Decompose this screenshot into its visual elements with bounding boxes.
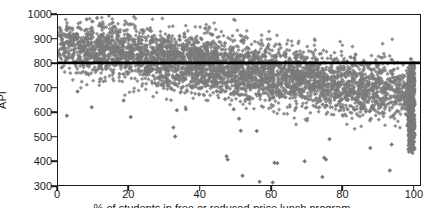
x-axis-label: % of students in free or reduced-price l… — [0, 188, 444, 208]
data-point — [305, 44, 309, 48]
data-point — [65, 21, 69, 25]
data-point — [381, 42, 385, 46]
data-point — [144, 87, 148, 91]
data-point — [133, 76, 137, 80]
data-point — [64, 17, 68, 21]
data-point — [110, 17, 114, 21]
data-point — [359, 124, 363, 128]
data-point — [230, 98, 234, 102]
data-point — [223, 41, 227, 45]
data-point — [383, 123, 387, 127]
data-point — [100, 16, 104, 20]
scatter-canvas — [58, 15, 420, 185]
data-point — [144, 82, 148, 86]
data-point — [146, 77, 150, 81]
data-point — [238, 99, 242, 103]
data-point — [129, 115, 133, 119]
data-point — [244, 106, 248, 110]
data-point — [350, 116, 354, 120]
data-point — [120, 79, 124, 83]
data-point — [332, 51, 336, 55]
data-point — [272, 110, 276, 114]
data-point — [237, 116, 241, 120]
data-point — [230, 34, 234, 38]
data-point — [259, 38, 263, 42]
data-point — [302, 159, 306, 163]
data-point — [320, 56, 324, 60]
y-tick-label: 800 — [0, 58, 52, 69]
data-point — [219, 30, 223, 34]
data-point — [189, 91, 193, 95]
data-point — [276, 101, 280, 105]
data-point — [329, 54, 333, 58]
data-point — [290, 43, 294, 47]
data-point — [135, 79, 139, 83]
data-point — [249, 42, 253, 46]
data-point — [171, 125, 175, 129]
data-point — [122, 33, 126, 37]
data-point — [285, 112, 289, 116]
data-point — [68, 71, 72, 75]
data-point — [374, 113, 378, 117]
data-point — [388, 54, 392, 58]
data-point — [333, 107, 337, 111]
data-point — [214, 27, 218, 31]
y-tick-label: 500 — [0, 131, 52, 142]
data-point — [235, 28, 239, 32]
data-point — [167, 25, 171, 29]
data-point — [377, 118, 381, 122]
data-point — [320, 175, 324, 179]
data-point — [116, 22, 120, 26]
data-point — [162, 86, 166, 90]
data-point — [193, 25, 197, 29]
data-point — [129, 22, 133, 26]
data-point — [79, 86, 83, 90]
data-point — [186, 29, 190, 33]
data-point — [184, 23, 188, 27]
y-axis-label: API — [0, 80, 8, 120]
data-point — [257, 180, 261, 184]
data-point — [353, 127, 357, 131]
data-point — [369, 54, 373, 58]
data-point — [339, 53, 343, 57]
data-point — [97, 83, 101, 87]
data-point — [248, 101, 252, 105]
plot-area — [57, 14, 421, 186]
data-point — [169, 98, 173, 102]
data-point — [71, 78, 75, 82]
data-point — [312, 43, 316, 47]
data-point — [398, 126, 402, 130]
data-point — [388, 106, 392, 110]
data-point — [129, 76, 133, 80]
data-point — [158, 29, 162, 33]
data-point — [287, 48, 291, 52]
data-point — [234, 97, 238, 101]
data-point — [175, 108, 179, 112]
data-point — [289, 39, 293, 43]
data-point — [123, 93, 127, 97]
data-point — [263, 98, 267, 102]
data-point — [255, 129, 259, 133]
data-point — [65, 114, 69, 118]
data-point — [118, 72, 122, 76]
data-point — [85, 83, 89, 87]
data-point — [270, 180, 274, 184]
data-point — [91, 79, 95, 83]
data-point — [193, 92, 197, 96]
data-point — [208, 93, 212, 97]
data-point — [345, 122, 349, 126]
data-point — [382, 52, 386, 56]
data-point — [89, 105, 93, 109]
data-point — [304, 101, 308, 105]
data-point — [275, 161, 279, 165]
data-point — [103, 75, 107, 79]
data-point — [368, 146, 372, 150]
data-point — [317, 110, 321, 114]
data-point — [240, 174, 244, 178]
data-point — [340, 43, 344, 47]
data-point — [160, 16, 164, 20]
data-point — [150, 17, 154, 21]
data-point — [393, 124, 397, 128]
data-point — [67, 66, 71, 70]
data-point — [275, 111, 279, 115]
